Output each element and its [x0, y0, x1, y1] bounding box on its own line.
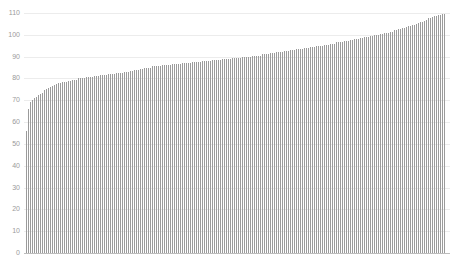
x-axis-baseline: [24, 253, 450, 254]
bar: [444, 14, 445, 253]
sorted-bar-chart: 0102030405060708090100110: [0, 0, 454, 259]
bars-area: [0, 0, 454, 259]
